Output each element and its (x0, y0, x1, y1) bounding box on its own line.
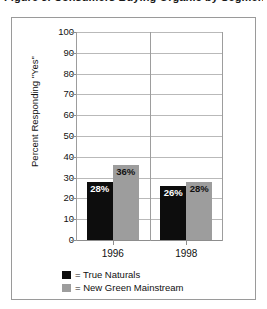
bar: 28% (186, 182, 212, 240)
bar-value-label: 28% (87, 184, 113, 194)
x-axis-tick-label: 1998 (156, 248, 216, 259)
x-axis-tick-label: 1996 (83, 248, 143, 259)
bar-value-label: 28% (186, 184, 212, 194)
chart-figure-frame: Percent Responding "Yes" 100908070605040… (11, 17, 256, 300)
bar-value-label: 36% (113, 167, 139, 177)
gridline-vertical (150, 32, 151, 241)
plot-area: 28%36%199626%28%1998 (76, 32, 223, 240)
x-axis-tick-mark (186, 240, 187, 245)
bar: 28% (87, 182, 113, 240)
legend-swatch-true-naturals (62, 271, 71, 279)
gridline-vertical (76, 32, 77, 241)
clipped-caption: Figure 3. Consumers Buying Organic by Se… (4, 0, 263, 5)
bar: 26% (160, 186, 186, 240)
legend-swatch-new-green-mainstream (62, 284, 71, 292)
bar-value-label: 26% (160, 188, 186, 198)
x-axis-tick-mark (113, 240, 114, 245)
bar: 36% (113, 165, 139, 240)
plot-wrapper: Percent Responding "Yes" 100908070605040… (12, 18, 257, 263)
gridline-vertical (222, 32, 223, 241)
legend-label: = New Green Mainstream (75, 282, 184, 293)
chart-legend: = True Naturals= New Green Mainstream (62, 268, 184, 294)
legend-item: = New Green Mainstream (62, 281, 184, 294)
legend-label: = True Naturals (75, 269, 140, 280)
legend-item: = True Naturals (62, 268, 184, 281)
y-axis-tick-labels: 1009080706050403020100 (38, 32, 74, 240)
